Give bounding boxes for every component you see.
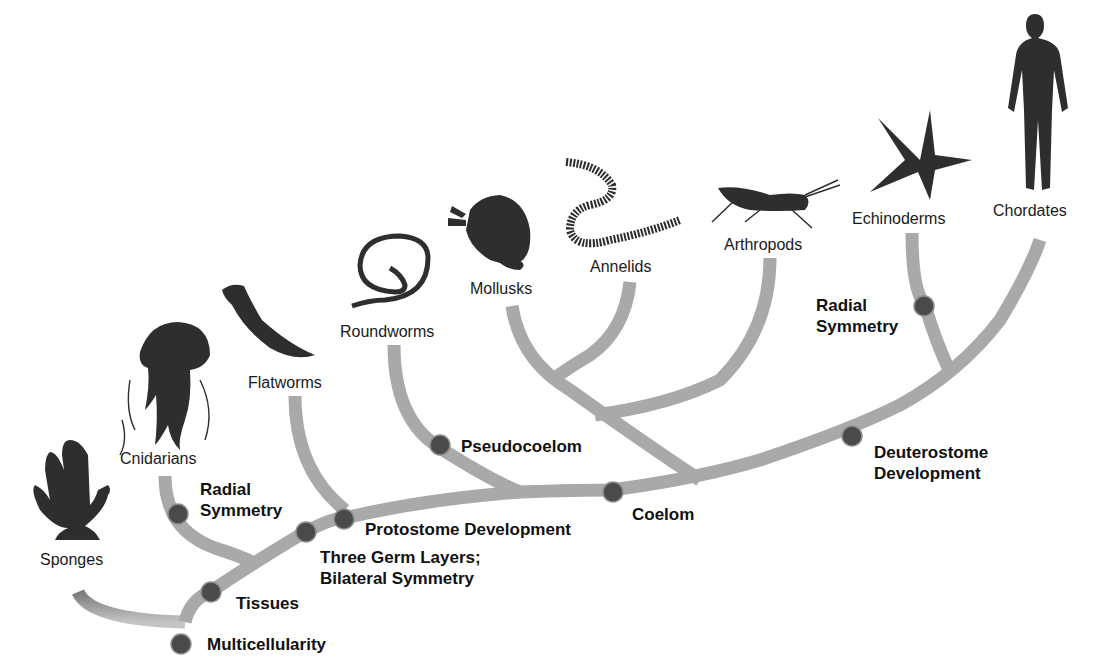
taxon-label-echinoderms: Echinoderms xyxy=(852,210,945,228)
node-protostome xyxy=(334,509,354,529)
trait-label-coelom: Coelom xyxy=(632,504,694,525)
trait-label-tissues: Tissues xyxy=(236,593,299,614)
trait-label-three-germ-layers: Three Germ Layers;Bilateral Symmetry xyxy=(320,547,481,589)
phylogenetic-tree xyxy=(0,0,1110,672)
node-radial-symmetry-2 xyxy=(914,296,934,316)
taxon-label-flatworms: Flatworms xyxy=(248,374,322,392)
node-coelom xyxy=(603,482,623,502)
branch-sponges xyxy=(78,592,185,622)
trait-label-radial-symmetry-2: RadialSymmetry xyxy=(816,295,898,337)
taxon-label-annelids: Annelids xyxy=(590,258,651,276)
trait-label-multicellularity: Multicellularity xyxy=(207,634,326,655)
taxon-label-sponges: Sponges xyxy=(40,551,103,569)
branch-trunk xyxy=(185,240,1040,622)
node-radial-symmetry-1 xyxy=(168,504,188,524)
trait-label-radial-symmetry-1: RadialSymmetry xyxy=(200,479,282,521)
clam-icon xyxy=(448,195,530,270)
node-multicellularity xyxy=(171,634,191,654)
taxon-label-cnidarians: Cnidarians xyxy=(120,450,196,468)
branches xyxy=(78,233,1040,622)
trait-label-deuterostome: DeuterostomeDevelopment xyxy=(874,442,988,484)
node-tissues xyxy=(201,582,221,602)
branch-annelids xyxy=(555,282,630,378)
node-deuterostome xyxy=(842,426,862,446)
taxon-label-mollusks: Mollusks xyxy=(470,280,532,298)
grasshopper-icon xyxy=(712,180,840,228)
human-icon xyxy=(1008,14,1068,190)
starfish-icon xyxy=(870,110,972,200)
sponge-icon xyxy=(33,440,110,540)
flatworm-icon xyxy=(222,285,315,358)
segmented-worm-icon xyxy=(566,162,680,243)
branch-flatworms xyxy=(295,396,345,510)
roundworm-icon xyxy=(352,236,428,306)
trait-label-pseudocoelom: Pseudocoelom xyxy=(461,436,582,457)
branch-arthropods xyxy=(595,258,770,415)
taxon-label-arthropods: Arthropods xyxy=(724,236,802,254)
trait-label-protostome: Protostome Development xyxy=(365,519,571,540)
taxon-label-roundworms: Roundworms xyxy=(340,323,434,341)
taxon-label-chordates: Chordates xyxy=(993,202,1067,220)
node-three-germ-layers xyxy=(296,522,316,542)
node-pseudocoelom xyxy=(430,435,450,455)
jellyfish-icon xyxy=(120,322,210,455)
branch-roundworms xyxy=(394,345,520,492)
